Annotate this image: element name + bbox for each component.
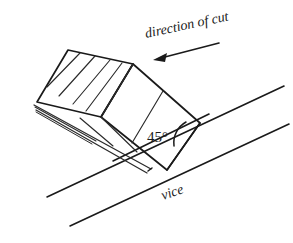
vice-line-bottom bbox=[70, 124, 289, 226]
saw-blade-kerf bbox=[36, 112, 92, 144]
vice-label: vice bbox=[159, 181, 185, 203]
direction-arrow-group bbox=[153, 43, 219, 62]
direction-arrow-head bbox=[153, 53, 167, 62]
direction-of-cut-label: direction of cut bbox=[144, 8, 231, 41]
front-slat-line bbox=[101, 117, 137, 152]
angle-label-45: 45° bbox=[147, 129, 168, 145]
workpiece-top-face bbox=[37, 50, 133, 117]
figure-root: 45° direction of cut vice bbox=[0, 0, 293, 243]
technical-diagram: 45° direction of cut vice bbox=[0, 0, 293, 243]
workpiece-group bbox=[37, 50, 200, 170]
slat-line bbox=[86, 63, 122, 111]
direction-arrow-shaft bbox=[161, 43, 219, 58]
workpiece-end-edge bbox=[167, 123, 200, 170]
slat-line bbox=[59, 56, 95, 96]
slat-line bbox=[73, 60, 110, 104]
workpiece-front-face bbox=[101, 64, 200, 170]
front-slat-line bbox=[103, 64, 133, 114]
vice-group bbox=[47, 86, 289, 226]
